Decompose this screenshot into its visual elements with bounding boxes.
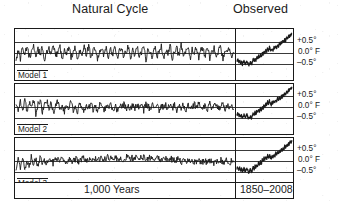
ytick-lower-3: –0.5° xyxy=(297,166,316,175)
trace-observed-3 xyxy=(237,140,292,173)
ytick-lower-2: –0.5° xyxy=(297,112,316,121)
series-plot-model-2 xyxy=(15,84,294,135)
footer-divider xyxy=(235,183,236,198)
ytick-zero-1: 0.0° F xyxy=(298,47,320,56)
ytick-upper-1: +0.5° xyxy=(297,36,316,45)
panel-divider-3 xyxy=(235,138,236,188)
header-observed: Observed xyxy=(233,2,288,16)
panel-divider-2 xyxy=(235,84,236,134)
panel-divider-1 xyxy=(235,29,236,80)
series-plot-model-1 xyxy=(15,29,294,81)
panel-model-1: Model 1 xyxy=(14,28,294,81)
ytick-zero-2: 0.0° F xyxy=(298,101,320,110)
panel-model-2: Model 2 xyxy=(14,83,294,135)
caption-natural-cycle-span: 1,000 Years xyxy=(84,183,139,195)
climate-model-figure: Natural Cycle Observed Model 1 Model 2 xyxy=(0,0,343,201)
chart-frame: Model 1 Model 2 Model 3 xyxy=(14,28,294,199)
trace-natural-cycle-1 xyxy=(16,42,234,62)
trace-observed-1 xyxy=(237,33,292,66)
caption-observed-span: 1850–2008 xyxy=(240,183,293,195)
trace-natural-cycle-3 xyxy=(16,154,234,170)
panel-label-model-1: Model 1 xyxy=(17,70,48,80)
trace-natural-cycle-2 xyxy=(16,98,234,116)
ytick-lower-1: –0.5° xyxy=(297,58,316,67)
header-natural-cycle: Natural Cycle xyxy=(72,2,148,16)
trace-observed-2 xyxy=(237,87,292,119)
ytick-upper-2: +0.5° xyxy=(297,90,316,99)
ytick-upper-3: +0.5° xyxy=(297,144,316,153)
ytick-zero-3: 0.0° F xyxy=(298,155,320,164)
panel-label-model-2: Model 2 xyxy=(17,124,48,134)
